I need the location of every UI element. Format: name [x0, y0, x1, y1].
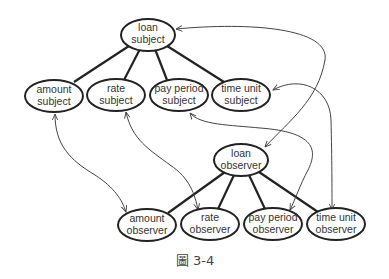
edge-loan-payperiod-subject	[155, 49, 167, 80]
node-amount-observer: amount observer	[118, 209, 176, 241]
edge-loan-rate-subject	[124, 49, 140, 80]
node-label: loan	[231, 147, 251, 159]
edge-loan-timeunit-observer	[259, 172, 318, 212]
node-payperiod-subject: pay period subject	[150, 79, 208, 111]
diagram-canvas: loan subject amount subject rate subject…	[0, 0, 389, 279]
arrow-rate-subject-observer	[126, 112, 198, 210]
node-label: loan	[138, 21, 158, 33]
node-label: observer	[316, 223, 357, 235]
edge-loan-timeunit-subject	[164, 44, 224, 82]
edge-loan-amount-observer	[168, 172, 225, 213]
node-label: observer	[253, 223, 294, 235]
node-label: time unit	[221, 82, 261, 94]
node-label: observer	[221, 159, 262, 171]
node-timeunit-subject: time unit subject	[212, 79, 270, 111]
arrow-amount-subject-observer	[55, 114, 126, 212]
node-label: subject	[131, 33, 164, 45]
edge-loan-payperiod-observer	[249, 175, 265, 209]
node-label: time unit	[316, 211, 356, 223]
figure-caption: 圖 3-4	[176, 253, 214, 268]
node-loan-subject: loan subject	[121, 19, 175, 51]
node-label: subject	[99, 94, 132, 106]
edge-loan-amount-subject	[74, 44, 132, 82]
node-label: subject	[224, 94, 257, 106]
node-label: rate	[201, 211, 219, 223]
node-label: amount	[129, 212, 164, 224]
edge-loan-rate-observer	[218, 175, 234, 209]
node-label: observer	[127, 224, 168, 236]
notification-arrows	[55, 26, 332, 212]
node-label: subject	[37, 95, 70, 107]
node-rate-subject: rate subject	[87, 79, 145, 111]
node-label: subject	[162, 94, 195, 106]
node-loan-observer: loan observer	[214, 144, 268, 176]
observer-hierarchy-edges	[168, 172, 318, 213]
node-label: pay period	[154, 82, 203, 94]
node-label: pay period	[248, 211, 297, 223]
node-label: amount	[36, 83, 71, 95]
node-label: observer	[190, 223, 231, 235]
arrow-timeunit-subject-observer	[273, 84, 332, 210]
node-amount-subject: amount subject	[25, 80, 83, 112]
node-payperiod-observer: pay period observer	[244, 208, 302, 240]
node-timeunit-observer: time unit observer	[307, 208, 365, 240]
node-rate-observer: rate observer	[181, 208, 239, 240]
node-label: rate	[107, 82, 125, 94]
